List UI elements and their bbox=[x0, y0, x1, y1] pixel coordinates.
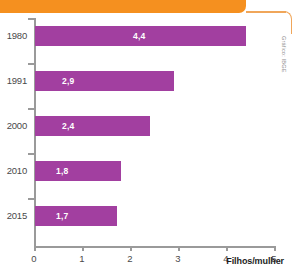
x-axis-tick-5 bbox=[274, 246, 276, 251]
y-axis-tick bbox=[28, 153, 34, 155]
y-axis-tick bbox=[28, 63, 34, 65]
x-axis-tick-2 bbox=[130, 246, 132, 251]
y-axis-label-2010: 2010 bbox=[0, 165, 27, 176]
bar-value-1980: 4,4 bbox=[133, 31, 145, 41]
bar-value-1991: 2,9 bbox=[62, 76, 74, 86]
x-axis-label-0: 0 bbox=[31, 253, 36, 264]
x-axis-tick-4 bbox=[226, 246, 228, 251]
header-accent-banner bbox=[0, 0, 246, 13]
bar-2010[interactable] bbox=[35, 161, 121, 181]
bar-value-2010: 1,8 bbox=[56, 166, 68, 176]
x-axis-title: Filhos/mulher bbox=[226, 256, 284, 266]
x-axis-label-2: 2 bbox=[127, 253, 132, 264]
x-axis-tick-0 bbox=[34, 246, 36, 251]
bar-1991[interactable] bbox=[35, 71, 174, 91]
y-axis-label-1980: 1980 bbox=[0, 30, 27, 41]
x-axis-tick-3 bbox=[178, 246, 180, 251]
x-axis-label-3: 3 bbox=[175, 253, 180, 264]
x-axis-label-1: 1 bbox=[79, 253, 84, 264]
bar-2000[interactable] bbox=[35, 116, 150, 136]
x-axis-line bbox=[34, 246, 275, 248]
y-axis-label-2015: 2015 bbox=[0, 210, 27, 221]
x-axis-tick-1 bbox=[82, 246, 84, 251]
y-axis-label-1991: 1991 bbox=[0, 75, 27, 86]
bar-value-2015: 1,7 bbox=[56, 211, 68, 221]
bar-value-2000: 2,4 bbox=[62, 121, 74, 131]
y-axis-tick bbox=[28, 18, 34, 20]
bar-chart: 1980 4,4 1991 2,9 2000 2,4 2010 1,8 2015… bbox=[0, 13, 302, 272]
bar-2015[interactable] bbox=[35, 206, 117, 226]
y-axis-tick bbox=[28, 198, 34, 200]
y-axis-label-2000: 2000 bbox=[0, 120, 27, 131]
y-axis-tick bbox=[28, 108, 34, 110]
